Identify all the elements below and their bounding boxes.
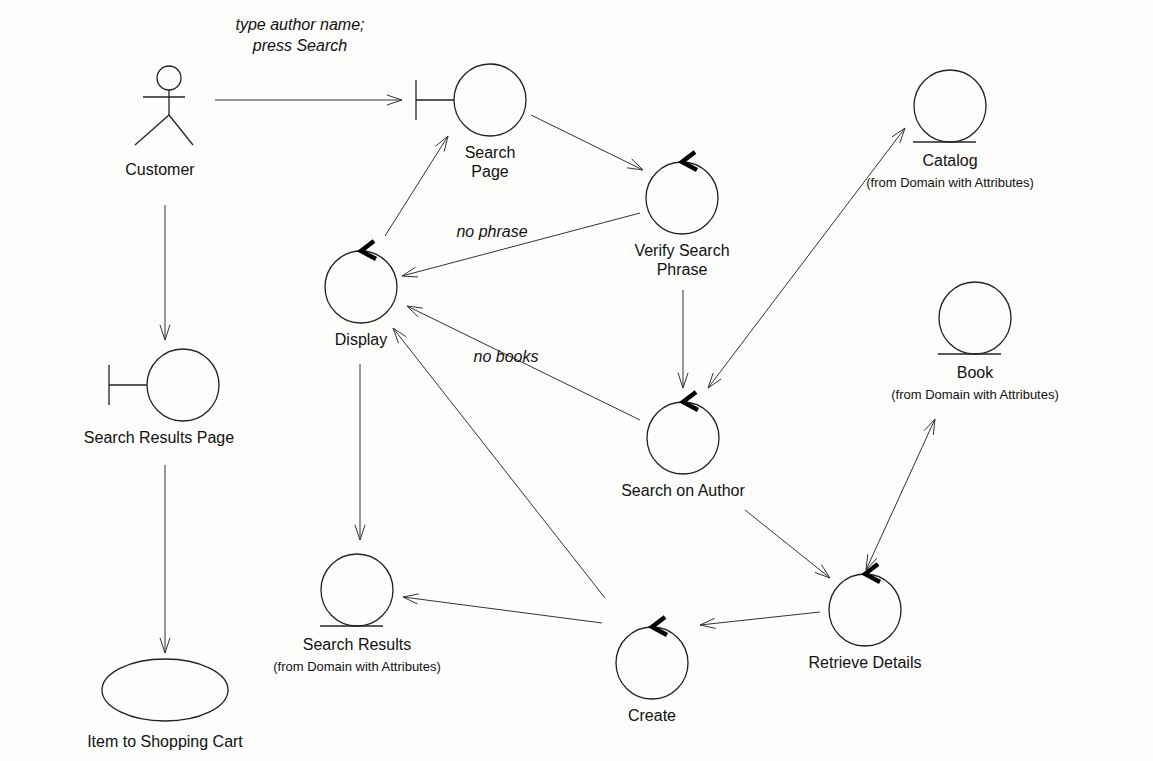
- edge-display-to-search-results[interactable]: [355, 364, 365, 540]
- node-label: Search Results Page: [84, 429, 234, 446]
- arrowhead-icon: [924, 419, 935, 435]
- edge-search-results-page-to-item-to-shopping-cart[interactable]: [160, 465, 170, 653]
- node-verify-search-phrase[interactable]: Verify SearchPhrase: [634, 152, 729, 278]
- edge-search-on-author-to-catalog[interactable]: [708, 128, 905, 388]
- control-circle: [325, 251, 397, 323]
- actor-leg-right: [169, 115, 193, 145]
- edge-search-on-author-to-display[interactable]: no books: [407, 306, 640, 420]
- edge-label: press Search: [252, 37, 347, 54]
- edge-line: [385, 136, 448, 236]
- edge-line: [866, 419, 935, 570]
- node-search-results-page[interactable]: Search Results Page: [84, 349, 234, 446]
- edge-line: [531, 115, 643, 170]
- node-label: Search Results: [303, 636, 412, 653]
- edge-label: type author name;: [236, 16, 365, 33]
- arrowhead-icon: [627, 159, 643, 170]
- actor-head: [157, 66, 181, 90]
- boundary-circle: [147, 349, 219, 421]
- edge-line: [393, 328, 605, 598]
- edge-verify-search-phrase-to-display[interactable]: no phrase: [402, 213, 640, 277]
- actor-leg-left: [135, 115, 169, 145]
- edge-line: [745, 510, 830, 578]
- edge-create-to-search-results[interactable]: [403, 594, 602, 623]
- node-item-to-shopping-cart[interactable]: Item to Shopping Cart: [87, 659, 243, 750]
- control-arrow-icon: [361, 241, 376, 259]
- robustness-diagram: type author name;press Searchno phraseno…: [0, 0, 1153, 761]
- control-arrow-icon: [682, 152, 697, 170]
- edge-retrieve-details-to-create[interactable]: [700, 612, 820, 628]
- node-search-page[interactable]: SearchPage: [416, 64, 526, 180]
- entity-circle: [321, 554, 393, 626]
- entity-circle: [939, 282, 1011, 354]
- entity-circle: [914, 70, 986, 142]
- control-arrow-icon: [652, 617, 667, 635]
- node-label: Display: [335, 331, 387, 348]
- control-arrow-icon: [683, 392, 698, 410]
- node-label: Search: [465, 144, 516, 161]
- node-label: Page: [471, 163, 508, 180]
- node-label: Verify Search: [634, 242, 729, 259]
- boundary-circle: [454, 64, 526, 136]
- node-label: Book: [957, 364, 994, 381]
- node-stereotype: (from Domain with Attributes): [273, 659, 441, 674]
- edge-customer-to-search-results-page[interactable]: [160, 205, 170, 340]
- node-retrieve-details[interactable]: Retrieve Details: [809, 564, 922, 671]
- node-display[interactable]: Display: [325, 241, 397, 348]
- node-search-results[interactable]: Search Results(from Domain with Attribut…: [273, 554, 441, 674]
- node-catalog[interactable]: Catalog(from Domain with Attributes): [866, 70, 1034, 190]
- node-label: Item to Shopping Cart: [87, 733, 243, 750]
- edge-line: [708, 128, 905, 388]
- edge-create-to-display[interactable]: [393, 328, 605, 598]
- control-circle: [616, 627, 688, 699]
- edges-layer: type author name;press Searchno phraseno…: [160, 16, 935, 653]
- usecase-ellipse: [102, 659, 228, 721]
- edge-retrieve-details-to-book[interactable]: [866, 419, 935, 570]
- node-stereotype: (from Domain with Attributes): [891, 387, 1059, 402]
- edge-label: no books: [474, 348, 539, 365]
- node-label: Phrase: [657, 261, 708, 278]
- actor-label: Customer: [125, 161, 195, 178]
- node-label: Catalog: [922, 152, 977, 169]
- edge-verify-search-phrase-to-search-on-author[interactable]: [678, 290, 688, 388]
- control-circle: [647, 402, 719, 474]
- edge-customer-to-search-page[interactable]: type author name;press Search: [215, 16, 402, 105]
- edge-search-on-author-to-retrieve-details[interactable]: [745, 510, 830, 578]
- edge-line: [700, 612, 820, 625]
- node-label: Retrieve Details: [809, 654, 922, 671]
- nodes-layer: SearchPageVerify SearchPhraseCatalog(fro…: [84, 64, 1059, 750]
- edge-display-to-search-page[interactable]: [385, 136, 448, 236]
- control-circle: [829, 574, 901, 646]
- actor-customer[interactable]: Customer: [125, 66, 195, 178]
- node-create[interactable]: Create: [616, 617, 688, 724]
- edge-label: no phrase: [456, 223, 527, 240]
- edge-search-page-to-verify-search-phrase[interactable]: [531, 115, 643, 170]
- edge-line: [403, 597, 602, 623]
- arrowhead-icon: [407, 306, 423, 317]
- node-label: Search on Author: [621, 482, 745, 499]
- node-search-on-author[interactable]: Search on Author: [621, 392, 745, 499]
- node-stereotype: (from Domain with Attributes): [866, 175, 1034, 190]
- control-circle: [646, 162, 718, 234]
- node-book[interactable]: Book(from Domain with Attributes): [891, 282, 1059, 402]
- node-label: Create: [628, 707, 676, 724]
